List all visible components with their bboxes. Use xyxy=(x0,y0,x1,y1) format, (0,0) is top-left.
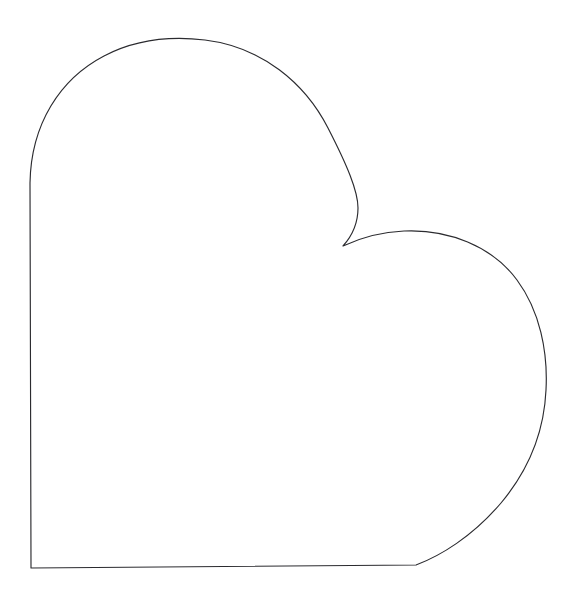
drawing-canvas xyxy=(0,0,580,599)
heart-outline-svg xyxy=(0,0,580,599)
